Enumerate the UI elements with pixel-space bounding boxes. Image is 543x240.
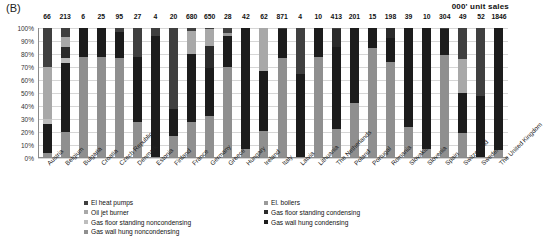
stacked-bar[interactable] [368,28,377,158]
category-label-cell: Denmark [128,159,146,201]
category-label-cell: Bulgaria [74,159,92,201]
bar-segment [151,36,160,158]
bar-total-label: 213 [56,13,74,25]
bar-segment [79,57,88,158]
bar-column[interactable] [490,28,508,158]
stacked-bar[interactable] [458,28,467,158]
bar-total-label: 10 [309,13,327,25]
legend-item[interactable]: El. boilers [264,198,444,207]
bar-segment [278,58,287,158]
legend-label: El. boilers [271,199,300,206]
bar-total-label: 39 [400,13,418,25]
bar-column[interactable] [436,28,454,158]
legend-item[interactable]: Gas floor standing condensing [264,208,444,217]
category-label-cell: Slovenia [418,159,436,201]
bar-segment [241,28,250,149]
stacked-bar[interactable] [440,28,449,158]
bar-segment [368,28,377,48]
category-label-cell: The United Kingdom [490,159,508,201]
bar-column[interactable] [309,28,327,158]
stacked-bar[interactable] [115,28,124,158]
stacked-bar[interactable] [494,28,503,158]
category-label-cell: Switzerland [454,159,472,201]
bar-column[interactable] [400,28,418,158]
stacked-bar[interactable] [79,28,88,158]
y-axis-tick: 100% [17,25,34,32]
bar-column[interactable] [56,28,74,158]
category-label-cell: France [183,159,201,201]
stacked-bar[interactable] [296,28,305,158]
category-label-cell: Poland [345,159,363,201]
y-axis-tick: 90% [21,38,34,45]
bar-total-label: 62 [255,13,273,25]
category-label-cell: Latvia [291,159,309,201]
category-label-cell: Ireland [255,159,273,201]
category-label-cell: Czech Republic [110,159,128,201]
stacked-bar[interactable] [386,28,395,158]
y-axis-ticks: 0%10%20%30%40%50%60%70%80%90%100% [0,28,36,158]
bar-column[interactable] [237,28,255,158]
bar-column[interactable] [454,28,472,158]
bar-column[interactable] [74,28,92,158]
bar-column[interactable] [165,28,183,158]
category-label-cell: The Netherlands [327,159,345,201]
bar-column[interactable] [92,28,110,158]
category-label-cell: Lithuania [309,159,327,201]
bar-segment [296,28,305,74]
bar-column[interactable] [255,28,273,158]
bar-segment [115,58,124,158]
bar-total-label: 49 [454,13,472,25]
unit-note: 000' unit sales [452,2,509,11]
y-axis-tick: 50% [21,90,34,97]
legend-column-left: El heat pumpsOil jet burnerGas floor sta… [84,198,264,238]
stacked-bar[interactable] [205,28,214,158]
bar-segment [259,71,268,131]
bar-segment [43,28,52,67]
bar-segment [296,74,305,159]
bar-column[interactable] [201,28,219,158]
legend-item[interactable]: Gas wall hung condensing [264,218,444,227]
stacked-bar[interactable] [43,28,52,158]
category-label-cell: Finland [165,159,183,201]
legend-item[interactable]: Gas floor standing noncondensing [84,218,264,227]
bar-column[interactable] [219,28,237,158]
y-axis-tick: 10% [21,142,34,149]
stacked-bar[interactable] [314,28,323,158]
stacked-bar[interactable] [97,28,106,158]
stacked-bar[interactable] [241,28,250,158]
stacked-bar[interactable] [151,28,160,158]
bar-total-label: 304 [436,13,454,25]
legend-item[interactable]: Oil jet burner [84,208,264,217]
bar-column[interactable] [472,28,490,158]
stacked-bar[interactable] [404,28,413,158]
stacked-bar[interactable] [332,28,341,158]
bar-column[interactable] [327,28,345,158]
legend-label: Gas floor standing condensing [271,209,360,216]
bar-segment [61,37,70,47]
legend-item[interactable]: El heat pumps [84,198,264,207]
stacked-bars [38,28,508,158]
bar-total-label: 4 [146,13,164,25]
bar-column[interactable] [183,28,201,158]
stacked-bar[interactable] [61,28,70,158]
stacked-bar[interactable] [259,28,268,158]
stacked-bar[interactable] [278,28,287,158]
bar-column[interactable] [381,28,399,158]
bar-column[interactable] [418,28,436,158]
bar-column[interactable] [38,28,56,158]
bar-column[interactable] [110,28,128,158]
bar-segment [404,28,413,127]
category-label-cell: Croatia [92,159,110,201]
bar-segment [187,54,196,122]
category-label-cell: Italy [273,159,291,201]
stacked-bar[interactable] [223,28,232,158]
stacked-bar[interactable] [169,28,178,158]
legend-swatch-icon [84,201,88,205]
bar-column[interactable] [273,28,291,158]
legend-column-right: El. boilersGas floor standing condensing… [264,198,444,238]
stacked-bar[interactable] [422,28,431,158]
stacked-bar[interactable] [187,28,196,158]
bar-segment [169,28,178,109]
legend-item[interactable]: Gas wall hung noncondensing [84,227,264,236]
bar-column[interactable] [291,28,309,158]
